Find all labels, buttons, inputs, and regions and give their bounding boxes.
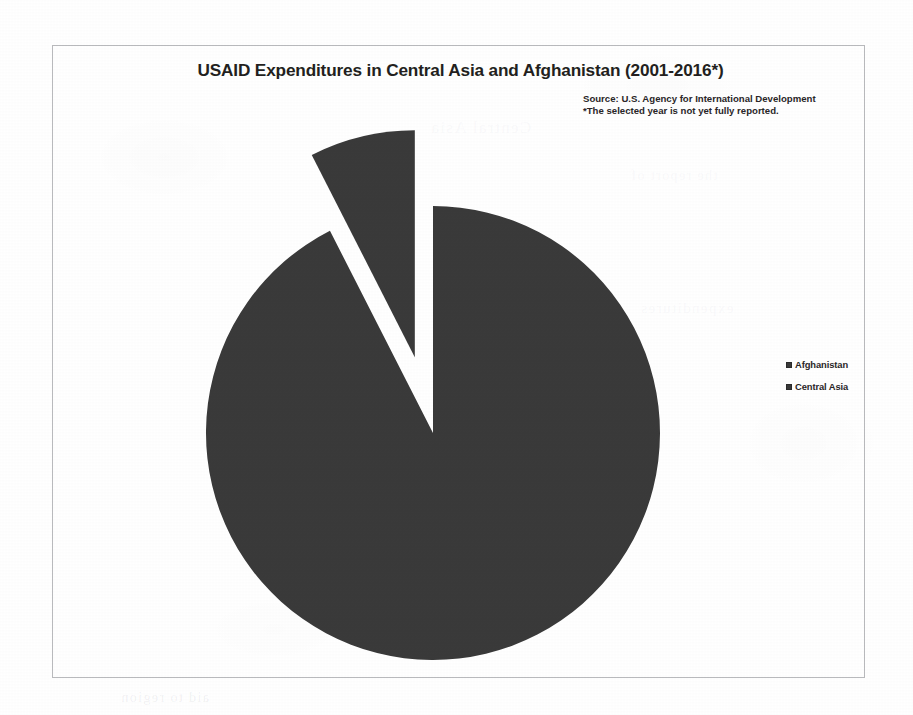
ghost-text-4: aid to region (120, 690, 209, 706)
pie-chart-svg (53, 46, 866, 679)
pie-plot-area (53, 46, 866, 679)
legend-item-afghanistan[interactable]: Afghanistan (786, 359, 864, 370)
legend-item-central-asia[interactable]: Central Asia (786, 381, 864, 392)
legend-label-afghanistan: Afghanistan (795, 359, 848, 370)
scanned-page: Central Asia the report of expenditures … (0, 0, 913, 715)
legend-swatch-icon-central-asia (786, 384, 792, 390)
chart-frame: USAID Expenditures in Central Asia and A… (52, 45, 865, 678)
legend-label-central-asia: Central Asia (795, 381, 848, 392)
pie-slice-afghanistan[interactable] (206, 206, 660, 660)
legend-swatch-icon-afghanistan (786, 362, 792, 368)
chart-legend: Afghanistan Central Asia (786, 359, 864, 403)
